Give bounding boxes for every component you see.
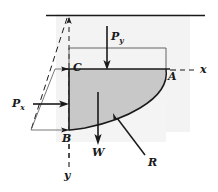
- pressure-trapezoid-slant-edge: [31, 69, 55, 130]
- label-point-b: B: [62, 133, 71, 144]
- label-force-w: W: [92, 147, 104, 158]
- label-force-r: R: [148, 157, 157, 168]
- label-point-a: A: [168, 71, 177, 82]
- label-force-px-subscript: x: [20, 103, 24, 112]
- label-force-px: Px: [12, 98, 25, 112]
- label-point-c: C: [73, 62, 82, 73]
- hydrostatic-force-diagram: [0, 0, 218, 192]
- figure-container: C A B x y Py Px W R: [0, 0, 218, 192]
- label-force-py-subscript: y: [119, 36, 123, 45]
- label-axis-x: x: [200, 64, 207, 75]
- label-force-py: Py: [111, 31, 124, 45]
- label-axis-y: y: [64, 170, 70, 181]
